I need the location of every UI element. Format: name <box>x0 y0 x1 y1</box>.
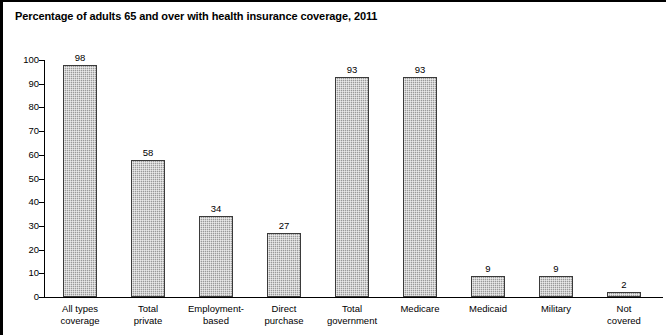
x-axis-label-line: Not <box>584 303 664 315</box>
bar-rect[interactable] <box>335 77 369 297</box>
chart-title: Percentage of adults 65 and over with he… <box>15 10 377 22</box>
bar-rect[interactable] <box>199 216 233 297</box>
y-axis-tick-label: 30 <box>13 221 39 230</box>
bar-rect[interactable] <box>607 292 641 297</box>
bar-item[interactable]: 34 <box>182 60 250 297</box>
bar-value-label: 9 <box>522 264 590 274</box>
bar-rect[interactable] <box>403 77 437 297</box>
bar-item[interactable]: 98 <box>46 60 114 297</box>
x-axis-label-line: covered <box>584 315 664 327</box>
bar-item[interactable]: 93 <box>386 60 454 297</box>
bar-item[interactable]: 27 <box>250 60 318 297</box>
bar-value-label: 58 <box>114 148 182 158</box>
bar-value-label: 93 <box>386 65 454 75</box>
bar-item[interactable]: 58 <box>114 60 182 297</box>
y-axis-tick-label: 40 <box>13 197 39 206</box>
y-axis-tick-label: 70 <box>13 126 39 135</box>
x-axis-label-line: government <box>312 315 392 327</box>
y-axis-labels: 1009080706050403020100 <box>11 60 39 297</box>
y-axis-tick <box>39 131 44 132</box>
y-axis-tick-label: 80 <box>13 102 39 111</box>
bar-value-label: 2 <box>590 280 658 290</box>
y-axis-tick-label: 0 <box>13 292 39 301</box>
bar-series: 985834279393992 <box>44 60 663 297</box>
bar-value-label: 34 <box>182 204 250 214</box>
y-axis-tick-label: 60 <box>13 150 39 159</box>
y-axis-tick <box>39 226 44 227</box>
y-axis-tick <box>39 273 44 274</box>
bar-item[interactable]: 93 <box>318 60 386 297</box>
y-axis-tick-label: 50 <box>13 174 39 183</box>
x-axis-category-label: Notcovered <box>584 303 664 326</box>
bar-item[interactable]: 9 <box>522 60 590 297</box>
plot-area: 985834279393992 <box>44 60 663 297</box>
y-axis-tick <box>39 297 44 298</box>
y-axis-tick-label: 20 <box>13 245 39 254</box>
bar-rect[interactable] <box>539 276 573 297</box>
bar-value-label: 93 <box>318 65 386 75</box>
y-axis-tick <box>39 107 44 108</box>
x-axis-category-labels: All typescoverageTotalprivateEmployment-… <box>44 303 663 335</box>
bar-item[interactable]: 2 <box>590 60 658 297</box>
bar-rect[interactable] <box>471 276 505 297</box>
chart-frame: Percentage of adults 65 and over with he… <box>0 0 666 335</box>
y-axis-tick <box>39 155 44 156</box>
y-axis-tick-label: 100 <box>13 55 39 64</box>
y-axis-tick-label: 10 <box>13 268 39 277</box>
bar-value-label: 98 <box>46 53 114 63</box>
bar-rect[interactable] <box>63 65 97 297</box>
y-axis-tick <box>39 250 44 251</box>
bar-value-label: 9 <box>454 264 522 274</box>
bar-item[interactable]: 9 <box>454 60 522 297</box>
y-axis-tick <box>39 179 44 180</box>
y-axis-tick <box>39 60 44 61</box>
bar-rect[interactable] <box>267 233 301 297</box>
x-axis-line <box>44 297 663 298</box>
bar-rect[interactable] <box>131 160 165 297</box>
y-axis-tick <box>39 202 44 203</box>
y-axis-tick <box>39 84 44 85</box>
bar-value-label: 27 <box>250 221 318 231</box>
y-axis-tick-label: 90 <box>13 79 39 88</box>
